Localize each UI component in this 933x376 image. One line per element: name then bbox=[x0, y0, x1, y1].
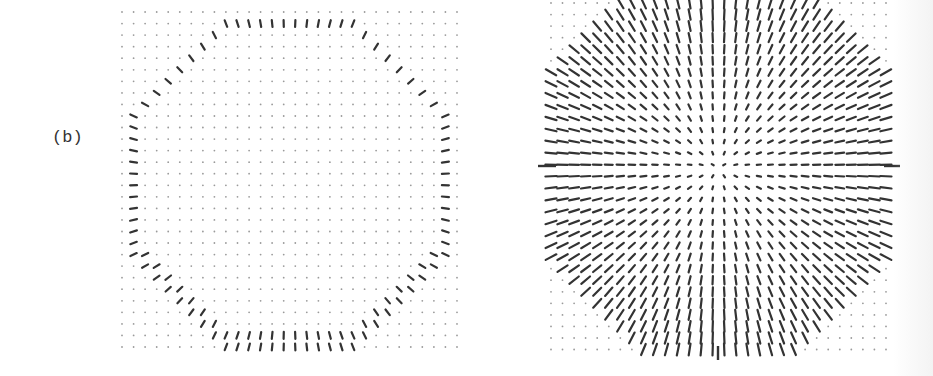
axis-ticks bbox=[538, 166, 900, 360]
left-ring-field bbox=[121, 11, 458, 350]
right-disk-field bbox=[545, 0, 891, 356]
vector-field-figure bbox=[0, 0, 933, 376]
scan-edge-shadow bbox=[893, 0, 933, 376]
